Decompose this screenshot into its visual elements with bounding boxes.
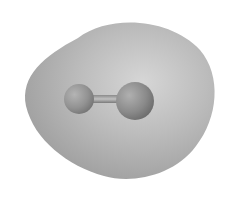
atom-large <box>116 82 154 120</box>
atom-small <box>64 84 94 114</box>
bond <box>90 95 120 103</box>
molecule-scene <box>0 0 231 200</box>
molecule-illustration <box>0 0 231 200</box>
